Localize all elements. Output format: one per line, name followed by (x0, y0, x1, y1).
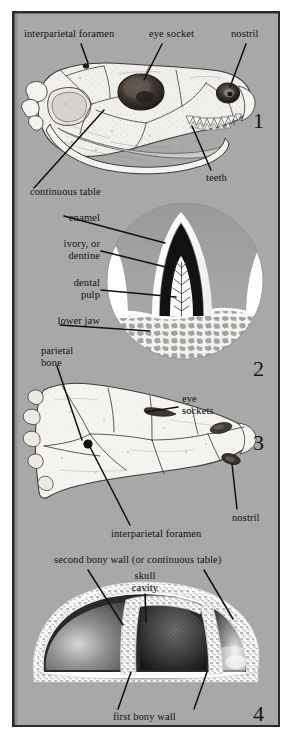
label-skull-cavity-p4: skull cavity (113, 570, 177, 593)
panel-number-4: 4 (253, 703, 264, 725)
label-continuous-table-p1: continuous table (30, 186, 101, 198)
label-eye-sockets-line2: sockets (182, 405, 214, 416)
label-eye-sockets-line1: eye (182, 393, 197, 404)
panel-number-1: 1 (253, 110, 264, 132)
label-first-bony-wall-p4: first bony wall (113, 711, 176, 723)
label-ivory-or-dentine-p2: ivory, or dentine (14, 238, 100, 261)
anatomy-figure-plate: interparietal foramen eye socket nostril… (0, 0, 295, 743)
label-enamel-p2: enamel (18, 212, 100, 224)
label-parietal-bone-p3: parietal bone (41, 345, 111, 368)
label-second-bony-wall-p4: second bony wall (or continuous table) (54, 554, 221, 566)
panel-number-2: 2 (253, 358, 264, 380)
label-parietal-line1: parietal (41, 345, 73, 356)
label-skull-cavity-line1: skull (135, 570, 156, 581)
label-nostril-p1: nostril (231, 28, 259, 40)
label-dental-line1: dental (74, 277, 100, 288)
label-eye-socket-p1: eye socket (149, 28, 194, 40)
label-interparietal-foramen-p1: interparietal foramen (24, 28, 114, 40)
panel-number-3: 3 (253, 432, 264, 454)
label-dental-pulp-p2: dental pulp (14, 277, 100, 300)
label-interparietal-foramen-p3: interparietal foramen (111, 528, 201, 540)
label-ivory-line1: ivory, or (64, 238, 100, 249)
label-skull-cavity-line2: cavity (132, 582, 158, 593)
plate-frame (12, 11, 280, 727)
label-parietal-line2: bone (41, 357, 62, 368)
label-teeth-p1: teeth (206, 172, 227, 184)
label-lower-jaw-p2: lower jaw (18, 315, 100, 327)
label-dental-line2: pulp (81, 289, 100, 300)
label-ivory-line2: dentine (68, 250, 100, 261)
label-eye-sockets-p3: eye sockets (182, 393, 252, 416)
label-nostril-p3: nostril (232, 512, 260, 524)
